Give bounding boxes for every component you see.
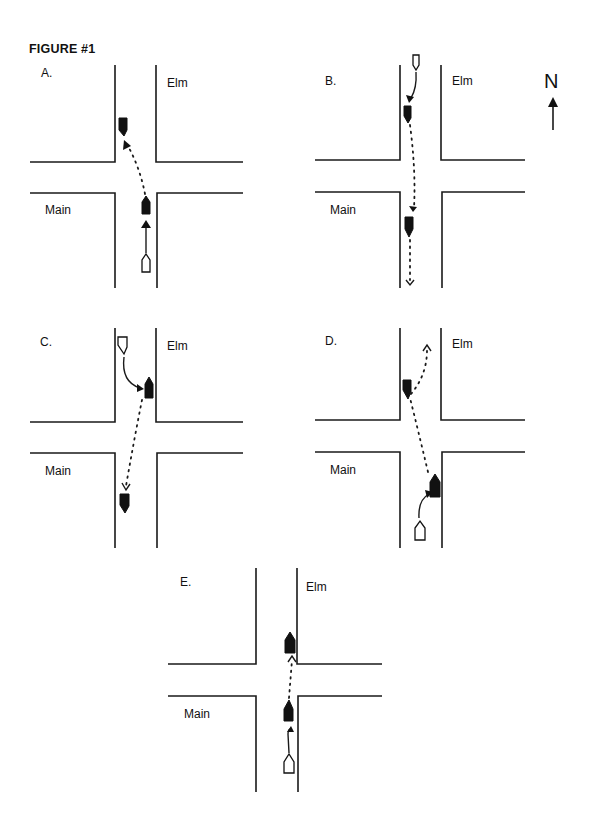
panel-b-vehicle-open: [413, 55, 419, 70]
panel-d-vehicle-filled-1: [430, 474, 440, 497]
north-arrow-icon: [548, 97, 558, 130]
panel-c-vehicle-filled-1: [145, 377, 153, 398]
panel-b-roads: [315, 65, 525, 288]
panel-d-vehicle-filled-2: [403, 380, 411, 399]
panel-e-vehicle-open: [284, 754, 294, 773]
panel-a-roads: [30, 65, 243, 288]
panel-e: [168, 568, 382, 792]
panel-a-vehicle-filled-2: [119, 118, 127, 136]
panel-d: [315, 328, 525, 548]
panel-c-vehicle-open: [118, 337, 127, 354]
panel-a: [30, 65, 243, 288]
panel-c: [30, 328, 243, 548]
panel-c-vehicle-filled-2: [120, 494, 129, 513]
panel-e-vehicle-filled-2: [285, 632, 295, 653]
figure-canvas: FIGURE #1 A. Elm Main B. Elm Main C. Elm…: [0, 0, 589, 830]
panel-d-vehicle-open: [415, 521, 425, 540]
panel-e-roads: [168, 568, 382, 792]
panel-a-vehicle-filled-1: [142, 196, 150, 214]
panel-e-vehicle-filled-1: [284, 700, 293, 721]
diagram-svg: [0, 0, 589, 830]
panel-b-vehicle-filled-2: [405, 217, 413, 237]
panel-b: [315, 55, 525, 288]
panel-c-roads: [30, 328, 243, 548]
panel-b-vehicle-filled-1: [404, 106, 411, 123]
panel-a-vehicle-open: [142, 254, 150, 272]
